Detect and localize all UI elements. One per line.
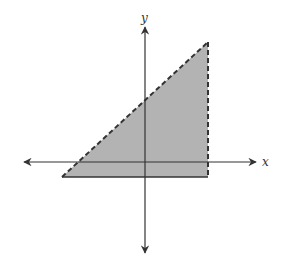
coordinate-plane: y x [0, 0, 287, 270]
y-axis-label: y [140, 11, 148, 25]
x-axis-label: x [262, 155, 269, 169]
